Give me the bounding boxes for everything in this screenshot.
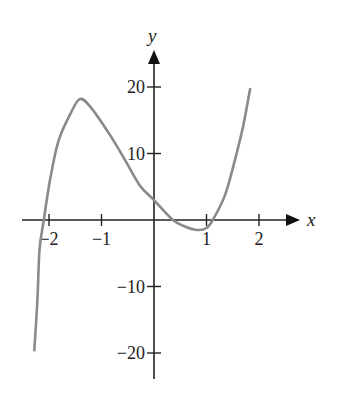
- y-tick-label: −20: [117, 343, 145, 363]
- x-tick-label: 2: [255, 229, 264, 249]
- y-tick-label: 20: [127, 77, 145, 97]
- x-tick-label: −1: [92, 229, 111, 249]
- x-axis-arrow-icon: [286, 214, 300, 226]
- x-axis: x: [22, 209, 316, 230]
- chart: x y −2−112 2010−10−20: [0, 0, 346, 404]
- y-axis: y: [146, 25, 160, 379]
- y-axis-arrow-icon: [148, 50, 160, 64]
- y-axis-label: y: [146, 25, 157, 46]
- x-tick-label: 1: [202, 229, 211, 249]
- x-axis-label: x: [306, 209, 316, 230]
- y-tick-label: −10: [117, 277, 145, 297]
- y-tick-label: 10: [127, 144, 145, 164]
